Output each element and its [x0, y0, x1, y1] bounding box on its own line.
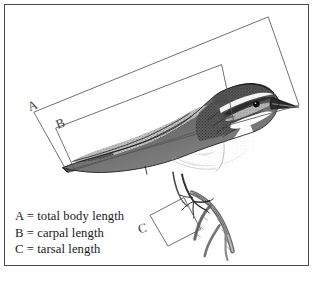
legend-line-c: C = tarsal length: [15, 241, 165, 258]
legend-line-b: B = carpal length: [15, 225, 165, 242]
plate-background: A B C A = total body length B = carpal l…: [5, 5, 308, 265]
box-label-a: A: [26, 97, 41, 114]
measurement-legend: A = total body length B = carpal length …: [15, 208, 165, 258]
illustration-plate: A B C A = total body length B = carpal l…: [4, 4, 309, 266]
legend-line-a: A = total body length: [15, 208, 165, 225]
figure-root: A B C A = total body length B = carpal l…: [0, 0, 317, 281]
box-label-b: B: [54, 116, 67, 132]
